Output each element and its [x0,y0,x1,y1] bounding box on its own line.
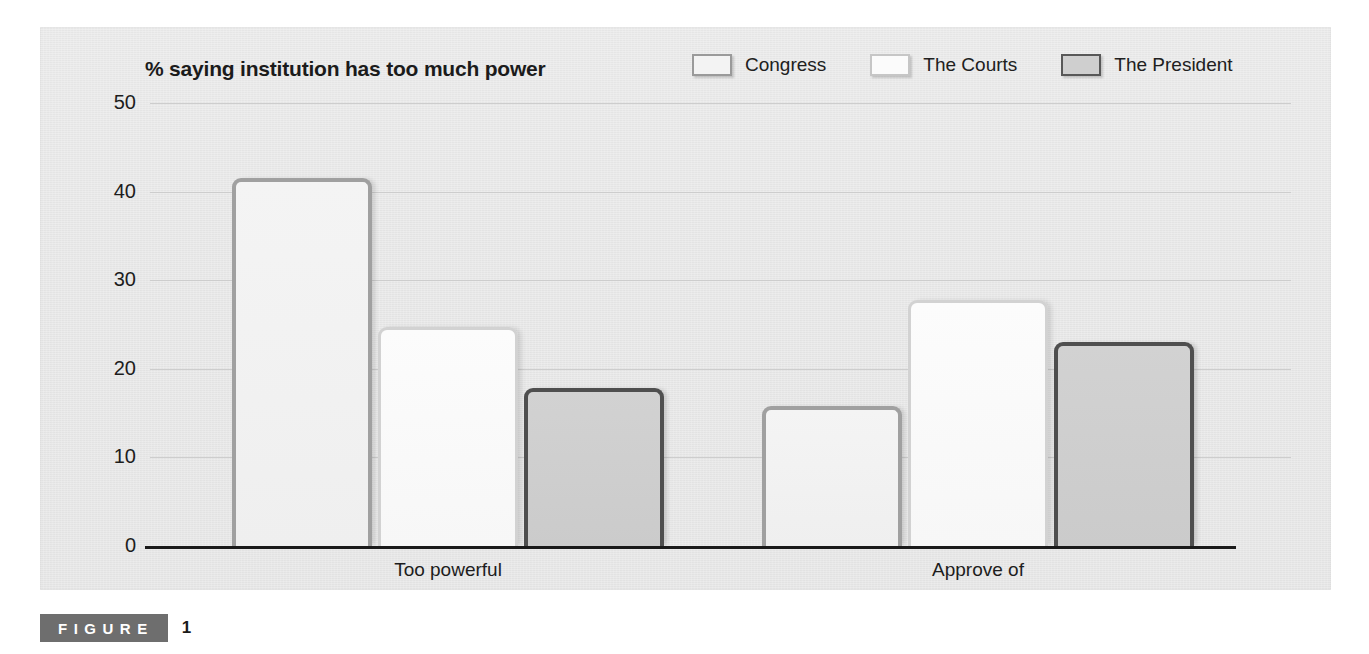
figure-caption-word: FIGURE [40,614,168,642]
legend-swatch-the-president [1061,54,1101,76]
bar-series-group [150,103,1291,546]
category-label-too-powerful: Too powerful [394,559,502,581]
legend-swatch-congress [692,54,732,76]
figure-caption-number: 1 [168,614,205,642]
y-tick-label-10: 10 [80,445,136,468]
legend-label-the-courts: The Courts [923,54,1017,76]
chart-title: % saying institution has too much power [145,57,546,81]
bar-president-approve-of [1054,342,1194,546]
legend-item-the-president: The President [1061,54,1232,76]
legend-label-the-president: The President [1114,54,1232,76]
chart-legend: Congress The Courts The President [692,54,1233,76]
legend-swatch-the-courts [870,54,910,76]
y-tick-label-30: 30 [80,268,136,291]
x-axis-baseline [145,546,1236,549]
legend-label-congress: Congress [745,54,826,76]
bar-courts-too-powerful [378,327,518,546]
bar-congress-approve-of [762,406,902,546]
y-tick-label-40: 40 [80,180,136,203]
plot-area: 50403020100 [80,103,1291,549]
legend-item-congress: Congress [692,54,826,76]
y-tick-label-0: 0 [80,534,136,557]
y-tick-label-20: 20 [80,357,136,380]
figure-panel: % saying institution has too much power … [40,27,1331,590]
y-tick-label-50: 50 [80,91,136,114]
bar-president-too-powerful [524,388,664,546]
figure-caption: FIGURE 1 [40,614,205,642]
legend-item-the-courts: The Courts [870,54,1017,76]
bar-congress-too-powerful [232,178,372,546]
category-label-approve-of: Approve of [932,559,1024,581]
bar-courts-approve-of [908,300,1048,546]
